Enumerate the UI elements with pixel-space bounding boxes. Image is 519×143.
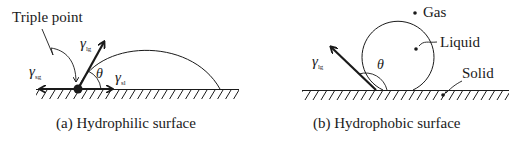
gamma-lg-vector bbox=[331, 47, 376, 90]
liquid-dot bbox=[414, 47, 418, 51]
caption-b: (b) Hydrophobic surface bbox=[313, 115, 461, 132]
gas-dot bbox=[413, 11, 417, 15]
solid-label: Solid bbox=[462, 65, 494, 81]
theta-label: θ bbox=[96, 66, 103, 81]
liquid-label: Liquid bbox=[440, 34, 480, 50]
droplet-profile bbox=[362, 21, 434, 90]
gamma-sl-label: γsl bbox=[115, 69, 126, 87]
triple-point-leader bbox=[42, 29, 76, 82]
solid-hatching bbox=[302, 91, 509, 100]
gamma-sg-label: γsg bbox=[29, 63, 42, 81]
theta-label: θ bbox=[377, 57, 384, 72]
gamma-lg-label: γlg bbox=[80, 35, 92, 53]
triple-point-label: Triple point bbox=[12, 9, 84, 25]
liquid-leader bbox=[419, 42, 437, 46]
caption-a: (a) Hydrophilic surface bbox=[56, 115, 196, 132]
triple-point-dot bbox=[74, 85, 83, 94]
panel-hydrophilic: Triple point γsg γlg θ γsl (a) Hydrophil… bbox=[12, 9, 239, 132]
solid-dot bbox=[441, 93, 445, 97]
gamma-lg-label: γlg bbox=[312, 53, 324, 71]
gas-label: Gas bbox=[423, 4, 446, 20]
panel-hydrophobic: θ γlg Gas Liquid Solid (b) Hydrophobic s… bbox=[302, 4, 509, 132]
solid-hatching bbox=[36, 90, 239, 99]
contact-angle-diagram: Triple point γsg γlg θ γsl (a) Hydrophil… bbox=[0, 0, 519, 143]
